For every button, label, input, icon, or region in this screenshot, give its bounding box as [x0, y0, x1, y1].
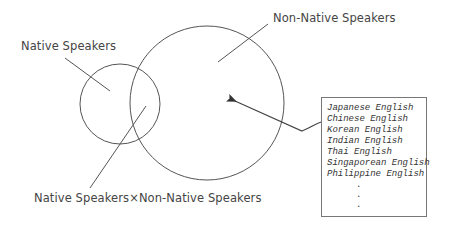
intersection-label: Native Speakers×Non-Native Speakers: [34, 191, 262, 205]
list-item: Thai English: [327, 147, 426, 158]
list-item: Philippine English: [327, 169, 426, 180]
non-native-speakers-label: Non-Native Speakers: [273, 11, 396, 25]
list-item: Indian English: [327, 136, 426, 147]
english-varieties-list: Japanese English Chinese English Korean …: [321, 97, 427, 217]
non-native-leader-line: [218, 24, 268, 62]
native-speakers-label: Native Speakers: [21, 39, 116, 53]
list-item: Japanese English: [327, 103, 426, 114]
continuation-dot: .: [327, 200, 426, 210]
list-arrow: [235, 101, 321, 131]
list-item: Chinese English: [327, 114, 426, 125]
list-item: Singaporean English: [327, 158, 426, 169]
venn-diagram: Native Speakers Non-Native Speakers Nati…: [0, 0, 453, 230]
native-speakers-circle: [80, 64, 160, 144]
intersection-leader-line: [90, 106, 146, 188]
list-item: Korean English: [327, 125, 426, 136]
native-leader-line: [65, 58, 110, 91]
continuation-dot: .: [327, 190, 426, 200]
non-native-speakers-circle: [130, 26, 284, 180]
continuation-dot: .: [327, 180, 426, 190]
